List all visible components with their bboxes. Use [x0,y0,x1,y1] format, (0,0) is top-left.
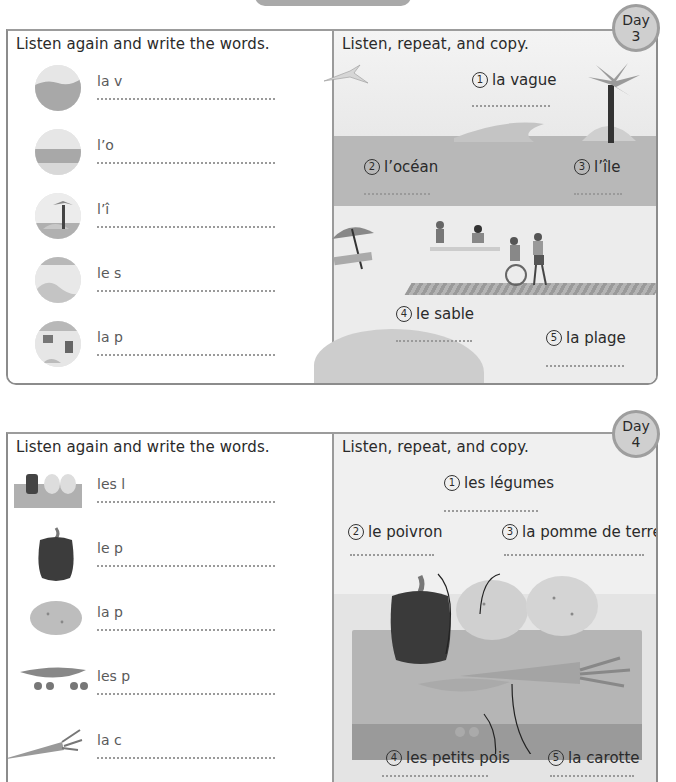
potato-icon [28,598,84,638]
copy-line[interactable] [472,105,550,107]
copy-words-heading: Listen, repeat, and copy. [342,438,529,456]
number-badge: 5 [548,750,564,766]
day-badge-number: 3 [615,28,657,44]
copy-words-heading: Listen, repeat, and copy. [342,35,529,53]
copy-word: la pomme de terre [522,523,658,541]
copy-line[interactable] [504,554,644,556]
copy-line[interactable] [396,340,472,342]
day-badge-3: Day 3 [612,4,660,52]
write-row: le p [8,532,332,582]
word-prompt: l’î [97,201,109,217]
palm-tree-icon [582,61,642,151]
number-badge: 3 [574,159,590,175]
copy-item-4: 4 les petits pois [386,749,510,767]
write-row: les p [8,660,332,710]
write-line[interactable] [97,354,275,356]
wheelchair-people-icon [500,233,560,291]
copy-line[interactable] [550,775,634,777]
section-tab [255,0,411,6]
peas-icon [18,664,88,694]
day-badge-label: Day [615,12,657,28]
write-row: la p [8,321,332,371]
copy-item-5: 5 la plage [546,329,626,347]
word-prompt: la c [97,732,122,748]
number-badge: 2 [348,524,364,540]
write-row: la c [8,724,332,774]
day3-panel: Listen again and write the words. la v l… [6,29,658,385]
island-icon [35,193,81,239]
copy-item-2: 2 l’océan [364,158,438,176]
day-badge-number: 4 [615,434,657,450]
word-prompt: l’o [97,137,114,153]
copy-line[interactable] [444,510,538,512]
number-badge: 1 [472,72,488,88]
number-badge: 1 [444,475,460,491]
write-row: la v [8,65,332,115]
copy-word: la carotte [568,749,640,767]
copy-word: les petits pois [406,749,510,767]
day-badge-label: Day [615,418,657,434]
write-words-section: Listen again and write the words. la v l… [8,31,332,383]
word-prompt: la v [97,73,122,89]
copy-line[interactable] [382,775,488,777]
write-words-heading: Listen again and write the words. [16,438,270,456]
copy-item-5: 5 la carotte [548,749,640,767]
word-prompt: les p [97,668,130,684]
copy-item-1: 1 la vague [472,71,556,89]
pepper-icon [34,526,78,582]
write-line[interactable] [97,629,275,631]
word-prompt: la p [97,329,123,345]
copy-word: la vague [492,71,556,89]
copy-item-2: 2 le poivron [348,523,442,541]
copy-line[interactable] [350,554,434,556]
copy-word: le poivron [368,523,442,541]
number-badge: 4 [386,750,402,766]
copy-line[interactable] [364,193,430,195]
write-words-section: Listen again and write the words. les l … [8,434,332,782]
copy-word: le sable [416,305,474,323]
day4-panel: Listen again and write the words. les l … [6,432,658,782]
copy-words-section: Listen, repeat, and copy. 1 la vague 2 l… [332,31,656,383]
word-prompt: le s [97,265,121,281]
umbrella-icon [330,219,380,279]
ocean-icon [35,129,81,175]
number-badge: 3 [502,524,518,540]
word-prompt: la p [97,604,123,620]
word-prompt: le p [97,540,123,556]
copy-item-3: 3 l’île [574,158,621,176]
number-badge: 4 [396,306,412,322]
write-line[interactable] [97,693,275,695]
copy-word: la plage [566,329,626,347]
write-row: les l [8,468,332,518]
copy-word: l’océan [384,158,438,176]
copy-item-3: 3 la pomme de terre [502,523,658,541]
copy-line[interactable] [574,193,622,195]
write-line[interactable] [97,757,275,759]
copy-word: l’île [594,158,621,176]
number-badge: 5 [546,330,562,346]
number-badge: 2 [364,159,380,175]
write-row: l’o [8,129,332,179]
wave-icon [35,65,81,111]
write-line[interactable] [97,290,275,292]
write-line[interactable] [97,226,275,228]
write-line[interactable] [97,501,275,503]
carrot-icon [6,726,84,766]
write-row: l’î [8,193,332,243]
word-prompt: les l [97,476,125,492]
copy-item-1: 1 les légumes [444,474,554,492]
write-line[interactable] [97,565,275,567]
write-row: la p [8,596,332,646]
children-playing-icon [430,219,500,255]
copy-line[interactable] [546,365,624,367]
write-words-heading: Listen again and write the words. [16,35,270,53]
sand-icon [35,257,81,303]
arrows-overlay [334,534,658,754]
write-row: le s [8,257,332,307]
copy-words-section: Listen, repeat, and copy. 1 les légumes … [332,434,656,782]
vegetables-icon [12,470,84,510]
beach-icon [35,321,81,367]
write-line[interactable] [97,98,275,100]
write-line[interactable] [97,162,275,164]
seagull-icon [320,61,380,91]
